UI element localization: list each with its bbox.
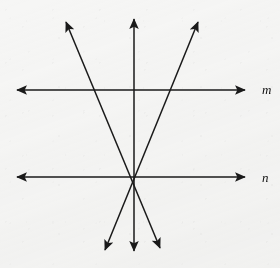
lines-group <box>17 19 245 251</box>
line-label-n: n <box>262 171 269 184</box>
geometry-figure: m n <box>0 0 280 268</box>
line-label-m: m <box>262 83 271 96</box>
diagram-canvas <box>0 0 280 268</box>
transversal-northwest-southeast <box>66 22 160 248</box>
transversal-northeast-southwest <box>105 22 198 250</box>
